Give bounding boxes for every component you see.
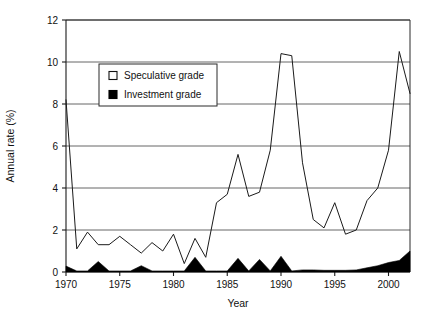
- x-axis-title: Year: [227, 297, 249, 309]
- legend-swatch-speculative-grade: [109, 72, 117, 80]
- chart-legend: Speculative gradeInvestment grade: [99, 64, 217, 106]
- y-tick-label-10: 10: [47, 57, 59, 68]
- legend-label-0: Speculative grade: [124, 70, 204, 81]
- y-tick-label-6: 6: [52, 141, 58, 152]
- x-tick-label-1975: 1975: [109, 279, 132, 290]
- y-tick-label-12: 12: [47, 15, 59, 26]
- x-tick-label-1990: 1990: [270, 279, 293, 290]
- legend-swatch-investment-grade: [109, 91, 117, 99]
- x-tick-label-1985: 1985: [216, 279, 239, 290]
- y-tick-label-8: 8: [52, 99, 58, 110]
- y-tick-label-4: 4: [52, 183, 58, 194]
- x-tick-label-1970: 1970: [55, 279, 78, 290]
- chart-container: 024681012 1970197519801985199019952000 S…: [0, 0, 434, 319]
- annual-default-rate-chart: 024681012 1970197519801985199019952000 S…: [0, 0, 434, 319]
- x-tick-label-1980: 1980: [162, 279, 185, 290]
- legend-label-1: Investment grade: [124, 89, 202, 100]
- x-tick-label-1995: 1995: [324, 279, 347, 290]
- y-axis-title: Annual rate (%): [4, 110, 16, 183]
- x-tick-label-2000: 2000: [377, 279, 400, 290]
- y-tick-label-0: 0: [52, 267, 58, 278]
- y-tick-label-2: 2: [52, 225, 58, 236]
